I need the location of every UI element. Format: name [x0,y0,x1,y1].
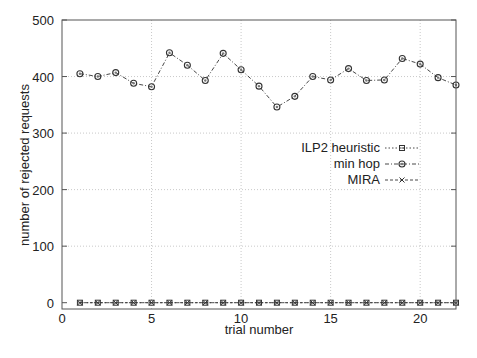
x-axis-label: trial number [225,322,294,337]
x-tick-label: 5 [148,311,155,326]
legend: ILP2 heuristicmin hopMIRA [301,140,420,187]
line-chart: 0100200300400500 05101520 trial number n… [0,0,477,358]
x-tick-label: 20 [413,311,427,326]
gridlines [62,20,456,309]
legend-entry: MIRA [348,172,421,187]
x-tick-label: 0 [58,311,65,326]
y-axis-ticks: 0100200300400500 [32,13,456,311]
y-tick-label: 400 [32,70,54,85]
svg-text:min hop: min hop [334,156,380,171]
series-min-hop [77,50,459,110]
svg-text:ILP2 heuristic: ILP2 heuristic [301,140,380,155]
y-tick-label: 500 [32,13,54,28]
plot-frame [62,20,456,309]
svg-text:MIRA: MIRA [348,172,381,187]
data-series [77,50,459,305]
y-tick-label: 0 [47,296,54,311]
y-tick-label: 100 [32,239,54,254]
y-tick-label: 300 [32,126,54,141]
legend-entry: min hop [334,156,420,171]
y-axis-label: number of rejected requests [17,84,32,246]
legend-entry: ILP2 heuristic [301,140,420,155]
y-tick-label: 200 [32,183,54,198]
x-tick-label: 15 [323,311,337,326]
